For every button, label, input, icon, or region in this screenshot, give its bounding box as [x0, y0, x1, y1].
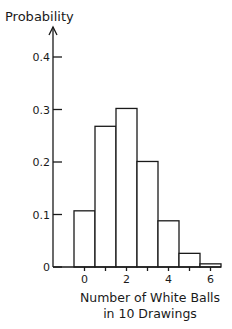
y-tick-label: 0.1 [33, 209, 51, 222]
histogram-bar [179, 253, 200, 267]
x-axis: 0246 [53, 267, 221, 286]
y-tick-label: 0.2 [33, 156, 51, 169]
x-tick-label: 0 [81, 273, 88, 286]
histogram-bar [158, 221, 179, 267]
histogram-bar [95, 126, 116, 267]
x-tick-label: 6 [207, 273, 214, 286]
y-tick-label: 0.3 [33, 104, 51, 117]
x-axis-label-line-1: Number of White Balls [80, 290, 220, 305]
histogram-bar [116, 108, 137, 267]
y-axis: 00.10.20.30.4 [33, 27, 63, 274]
y-tick-label: 0.4 [33, 51, 51, 64]
y-axis-label: Probability [5, 9, 74, 24]
x-axis-label-line-2: in 10 Drawings [103, 306, 197, 321]
histogram-chart: Probability 00.10.20.30.4 0246 Number of… [0, 0, 232, 329]
histogram-bar [137, 161, 158, 267]
y-tick-label: 0 [43, 261, 50, 274]
bars [74, 108, 221, 267]
histogram-bar [74, 211, 95, 267]
x-tick-label: 2 [123, 273, 130, 286]
x-tick-label: 4 [165, 273, 172, 286]
